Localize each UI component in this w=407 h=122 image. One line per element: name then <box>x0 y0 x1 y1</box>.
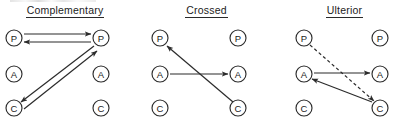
node-label: P <box>377 33 383 44</box>
node-parent-left: P <box>6 30 22 46</box>
node-label: C <box>11 103 18 114</box>
node-parent-right: P <box>93 30 109 46</box>
panel-complementary-svg: P A C P A <box>0 0 130 122</box>
node-label: C <box>301 103 308 114</box>
node-label: C <box>377 103 384 114</box>
crossed-edges <box>167 46 233 102</box>
panel-crossed: Crossed P A <box>143 0 270 122</box>
node-parent-left: P <box>152 30 168 46</box>
node-label: A <box>157 69 164 80</box>
node-label: A <box>98 69 105 80</box>
complementary-edges <box>21 34 97 109</box>
panel-crossed-svg: P A C P A <box>143 0 270 122</box>
node-parent-right: P <box>372 30 388 46</box>
node-label: C <box>235 103 242 114</box>
node-label: A <box>377 69 384 80</box>
panel-ulterior: Ulterior P A <box>282 0 407 122</box>
node-label: A <box>11 69 18 80</box>
edge-p-right-to-c-left <box>21 46 94 102</box>
node-adult-left: A <box>152 66 168 82</box>
edge-c-left-to-p-right <box>24 51 97 109</box>
node-label: P <box>235 33 241 44</box>
node-parent-left: P <box>296 30 312 46</box>
node-adult-left: A <box>296 66 312 82</box>
node-label: A <box>235 69 242 80</box>
edge-c-right-to-a-left <box>312 79 372 102</box>
node-adult-left: A <box>6 66 22 82</box>
node-label: P <box>11 33 17 44</box>
node-label: C <box>98 103 105 114</box>
node-label: P <box>98 33 104 44</box>
node-child-left: C <box>296 100 312 116</box>
node-adult-right: A <box>230 66 246 82</box>
node-parent-right: P <box>230 30 246 46</box>
panel-ulterior-svg: P A C P A <box>282 0 407 122</box>
node-adult-right: A <box>372 66 388 82</box>
ulterior-edges <box>310 45 374 102</box>
complementary-nodes: P A C P A <box>6 30 109 116</box>
node-label: A <box>301 69 308 80</box>
node-label: C <box>157 103 164 114</box>
node-child-left: C <box>152 100 168 116</box>
node-label: P <box>157 33 163 44</box>
transaction-diagram-figure: Complementary P A <box>0 0 407 122</box>
node-child-left: C <box>6 100 22 116</box>
node-label: P <box>301 33 307 44</box>
node-child-right: C <box>93 100 109 116</box>
node-child-right: C <box>372 100 388 116</box>
panel-complementary: Complementary P A <box>0 0 130 122</box>
node-adult-right: A <box>93 66 109 82</box>
node-child-right: C <box>230 100 246 116</box>
